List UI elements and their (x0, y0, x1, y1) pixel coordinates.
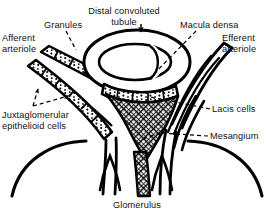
label-juxtaglomerular-epithelioid-cells: Juxtaglomerular epithelioid cells (2, 110, 69, 131)
label-glomerulus: Glomerulus (87, 200, 187, 211)
distal-convoluted-tubule (84, 30, 190, 94)
label-mesangium: Mesangium (210, 131, 258, 142)
label-macula-densa: Macula densa (180, 20, 238, 31)
label-afferent-arteriole: Afferent arteriole (2, 33, 36, 54)
label-efferent-arteriole: Efferent arteriole (222, 33, 256, 54)
mesangium-leader (160, 133, 208, 136)
jg-leader-upper (33, 89, 38, 106)
granules-leader (66, 31, 76, 50)
label-distal-convoluted-tubule: Distal convoluted tubule (76, 6, 172, 27)
jg-leader-lower (33, 96, 68, 106)
juxtaglomerular-apparatus-figure: Afferent arteriole Granules Distal convo… (0, 0, 274, 218)
label-lacis-cells: Lacis cells (212, 104, 255, 115)
